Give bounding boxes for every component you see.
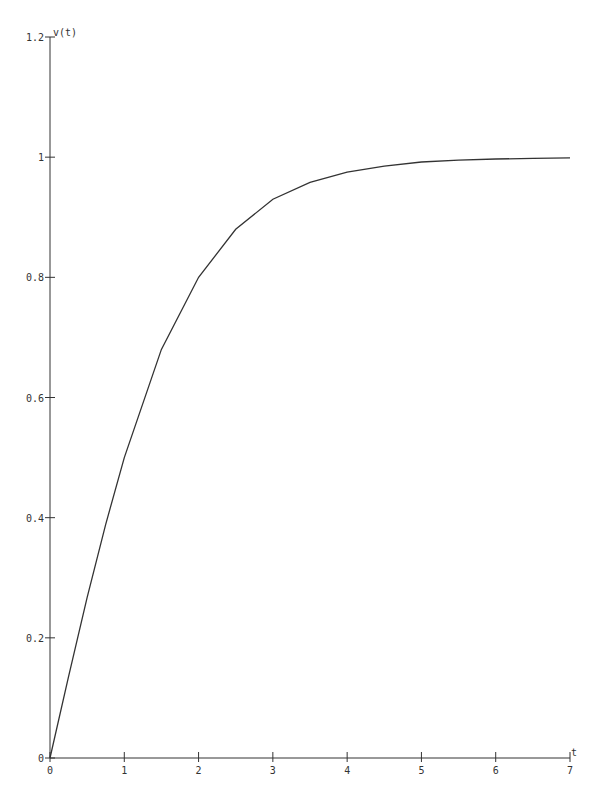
axes xyxy=(50,37,570,758)
x-tick-label: 0 xyxy=(47,765,53,776)
y-tick-label: 0.2 xyxy=(26,633,44,644)
x-tick-label: 6 xyxy=(493,765,499,776)
y-tick-label: 0.4 xyxy=(26,513,44,524)
x-axis-label: t xyxy=(571,747,577,758)
x-tick-label: 2 xyxy=(196,765,202,776)
x-tick-label: 3 xyxy=(270,765,276,776)
x-tick-label: 5 xyxy=(418,765,424,776)
x-tick-label: 4 xyxy=(344,765,350,776)
x-tick-label: 7 xyxy=(567,765,573,776)
y-tick-label: 0.6 xyxy=(26,393,44,404)
x-tick-label: 1 xyxy=(121,765,127,776)
y-tick-label: 0 xyxy=(38,753,44,764)
y-tick-label: 0.8 xyxy=(26,272,44,283)
ticks: 0123456700.20.40.60.811.2 xyxy=(26,32,573,776)
y-tick-label: 1 xyxy=(38,152,44,163)
y-axis-label: v(t) xyxy=(53,27,77,38)
y-tick-label: 1.2 xyxy=(26,32,44,43)
chart: 0123456700.20.40.60.811.2 v(t) t xyxy=(0,0,594,804)
data-line-v xyxy=(50,158,570,758)
